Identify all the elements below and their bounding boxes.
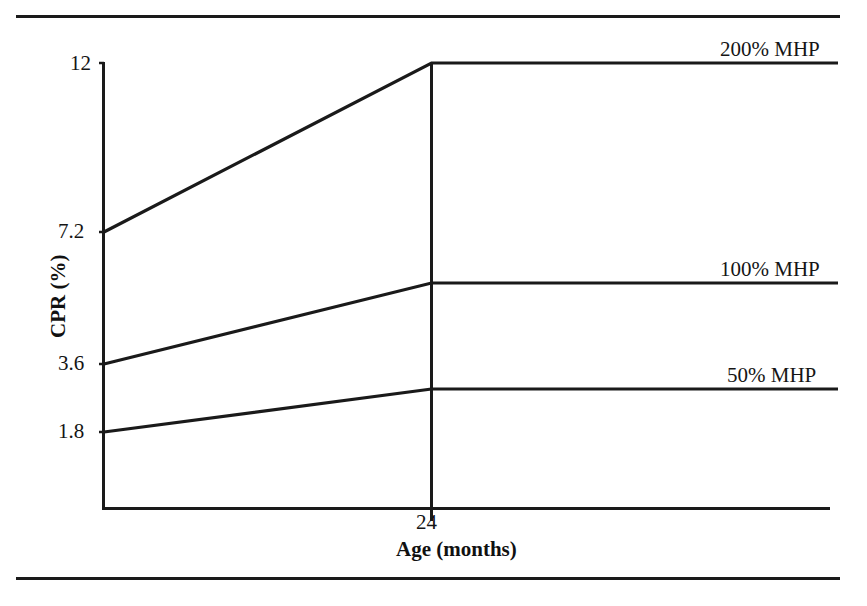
figure-page: 12 7.2 3.6 1.8 24 CPR (%) Age (months) 2… [0, 0, 867, 606]
ytick-label-7-2: 7.2 [58, 221, 84, 242]
x-axis-title: Age (months) [396, 539, 517, 560]
series-label-200-mhp: 200% MHP [720, 39, 820, 60]
ytick-label-3-6: 3.6 [58, 353, 84, 374]
ytick-label-12: 12 [70, 53, 91, 74]
series-line-200-mhp [104, 63, 838, 232]
series-label-50-mhp: 50% MHP [727, 365, 816, 386]
y-axis-title: CPR (%) [48, 255, 69, 338]
ytick-label-1-8: 1.8 [58, 421, 84, 442]
series-line-100-mhp [104, 283, 838, 364]
series-label-100-mhp: 100% MHP [720, 259, 820, 280]
xtick-label-24: 24 [416, 512, 437, 533]
series-line-50-mhp [104, 389, 838, 432]
